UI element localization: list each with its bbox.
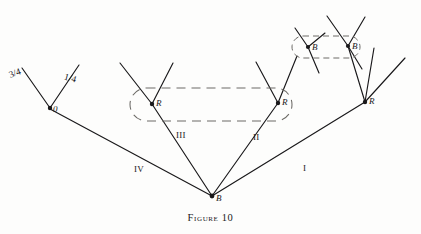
edge-ii (212, 103, 278, 196)
info-set-r-outline (130, 88, 292, 121)
node-dot-chance (48, 106, 52, 110)
node-label-b-upper-right: B (352, 42, 358, 51)
node-label-b-upper-left: B (312, 43, 318, 52)
figure-caption-number: 10 (222, 212, 234, 223)
node-label-r-right: R (369, 97, 375, 106)
edge-iii (152, 104, 212, 196)
info-set-r (130, 88, 292, 121)
node-dot-r-mid (276, 101, 280, 105)
branch-label-iii: III (176, 131, 186, 140)
figure-caption-word: Figure (188, 212, 219, 223)
node-label-b-bottom: B (216, 194, 222, 203)
branch-label-iv: IV (134, 165, 144, 174)
node-label-chance: 0 (53, 105, 58, 114)
game-tree-svg (0, 0, 421, 234)
node-dot-b-bottom (210, 194, 215, 199)
edge-r-left-branch-a (120, 63, 152, 104)
edge-chance-upper-right (50, 65, 79, 108)
edge-r-mid-branch-a (256, 62, 278, 103)
node-label-r-mid: R (282, 98, 288, 107)
figure-10-diagram: 3/4 1/4 0 R R R B B B IV III II I Figure… (0, 0, 421, 234)
edge-i (212, 102, 365, 196)
edge-b-upper-right-branch-a (327, 16, 348, 46)
edge-iv (50, 109, 212, 196)
node-dot-b-upper-left (306, 45, 310, 49)
node-dot-r-right (363, 100, 367, 104)
node-label-r-left: R (156, 99, 162, 108)
node-dot-b-upper-right (346, 44, 350, 48)
branch-label-ii: II (253, 133, 259, 142)
edge-chance-upper-left (22, 68, 50, 108)
node-dot-r-left (150, 102, 154, 106)
tree-edges (22, 16, 405, 196)
figure-caption: Figure 10 (0, 212, 421, 223)
edge-r-mid-branch-b (278, 56, 297, 103)
branch-label-i: I (303, 164, 306, 173)
